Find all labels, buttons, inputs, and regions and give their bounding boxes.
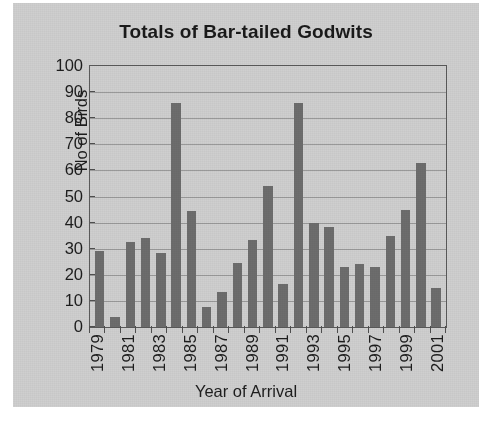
- bar-slot: [413, 66, 428, 327]
- x-axis-tick-mark: [244, 326, 245, 333]
- x-axis-tick-mark: [213, 326, 214, 333]
- x-axis-title: Year of Arrival: [13, 382, 479, 401]
- bar: [431, 288, 440, 327]
- y-axis-tick-label: 40: [65, 213, 83, 230]
- y-axis-tick-label: 100: [55, 57, 83, 74]
- bar: [263, 186, 272, 327]
- chart-card: Totals of Bar-tailed Godwits No of Birds…: [13, 3, 479, 407]
- bar-slot: [398, 66, 413, 327]
- bar-slot: [92, 66, 107, 327]
- bar-slot: [291, 66, 306, 327]
- chart-title: Totals of Bar-tailed Godwits: [13, 21, 479, 43]
- x-axis-tick-label: 1987: [213, 334, 230, 372]
- x-axis-tick-label: 1997: [367, 334, 384, 372]
- x-axis-tick-mark: [104, 326, 105, 333]
- x-axis-tick-label: 1979: [89, 334, 106, 372]
- bar: [248, 240, 257, 327]
- y-axis-tick-label: 90: [65, 83, 83, 100]
- x-axis-tick-mark: [259, 326, 260, 333]
- x-axis-tick-mark: [399, 326, 400, 333]
- bar-slot: [245, 66, 260, 327]
- x-axis-tick-label: 1995: [336, 334, 353, 372]
- x-axis-tick-label: 2001: [429, 334, 446, 372]
- bar: [217, 292, 226, 327]
- bar: [401, 210, 410, 327]
- y-axis-tick-label: 0: [74, 318, 83, 335]
- x-axis-tick-mark: [120, 326, 121, 333]
- bar-slot: [138, 66, 153, 327]
- y-axis-tick-label: 60: [65, 161, 83, 178]
- y-axis-tick-label: 10: [65, 292, 83, 309]
- x-axis-tick-label: 1981: [120, 334, 137, 372]
- x-axis-tick-mark: [337, 326, 338, 333]
- x-axis-tick-mark: [89, 326, 90, 333]
- bar-slot: [306, 66, 321, 327]
- y-axis-tick-label: 30: [65, 239, 83, 256]
- x-axis-tick-mark: [228, 326, 229, 333]
- x-axis-tick-mark: [275, 326, 276, 333]
- bar-slot: [367, 66, 382, 327]
- bar-slot: [184, 66, 199, 327]
- x-axis-tick-mark: [182, 326, 183, 333]
- bar: [156, 253, 165, 327]
- y-axis-tick-labels: 0102030405060708090100: [39, 65, 83, 326]
- x-axis-tick-mark: [414, 326, 415, 333]
- bar-slot: [214, 66, 229, 327]
- x-axis-tick-mark: [151, 326, 152, 333]
- x-axis-tick-label: 1989: [244, 334, 261, 372]
- bar-slot: [383, 66, 398, 327]
- bar: [233, 263, 242, 327]
- bar-slot: [337, 66, 352, 327]
- x-axis-tick-mark: [321, 326, 322, 333]
- y-axis-tick-label: 50: [65, 187, 83, 204]
- bar-series: [90, 66, 446, 327]
- bar: [95, 251, 104, 327]
- bar: [340, 267, 349, 327]
- x-axis-tick-mark: [430, 326, 431, 333]
- bar: [309, 223, 318, 327]
- chart-figure: Totals of Bar-tailed Godwits No of Birds…: [0, 0, 493, 433]
- bar-slot: [230, 66, 245, 327]
- bar: [187, 211, 196, 327]
- bar-slot: [276, 66, 291, 327]
- bar: [141, 238, 150, 327]
- bar-slot: [168, 66, 183, 327]
- bar: [324, 227, 333, 327]
- x-axis-tick-mark: [352, 326, 353, 333]
- x-axis-tick-mark: [197, 326, 198, 333]
- bar: [294, 103, 303, 327]
- bar: [355, 264, 364, 327]
- bar-slot: [352, 66, 367, 327]
- x-axis-tick-mark: [306, 326, 307, 333]
- bar-slot: [123, 66, 138, 327]
- bar: [278, 284, 287, 327]
- bar: [386, 236, 395, 327]
- bar-slot: [260, 66, 275, 327]
- bar: [126, 242, 135, 327]
- x-axis-tick-mark: [290, 326, 291, 333]
- bar: [171, 103, 180, 327]
- x-axis-tick-marks: [89, 326, 445, 333]
- x-axis-tick-mark: [135, 326, 136, 333]
- bar-slot: [429, 66, 444, 327]
- x-axis-tick-label: 1983: [151, 334, 168, 372]
- bar: [416, 163, 425, 327]
- x-axis-tick-label: 1999: [398, 334, 415, 372]
- x-axis-tick-mark: [383, 326, 384, 333]
- plot-area: [89, 65, 447, 328]
- y-axis-tick-label: 70: [65, 135, 83, 152]
- x-axis-tick-mark: [368, 326, 369, 333]
- x-axis-tick-labels: 1979198119831985198719891991199319951997…: [89, 334, 445, 386]
- x-axis-tick-label: 1993: [305, 334, 322, 372]
- bar-slot: [107, 66, 122, 327]
- x-axis-tick-mark: [445, 326, 446, 333]
- bar: [202, 307, 211, 327]
- y-axis-tick-label: 80: [65, 109, 83, 126]
- y-axis-tick-label: 20: [65, 266, 83, 283]
- bar-slot: [153, 66, 168, 327]
- bar: [370, 267, 379, 327]
- bar-slot: [321, 66, 336, 327]
- bar-slot: [199, 66, 214, 327]
- x-axis-tick-label: 1991: [274, 334, 291, 372]
- x-axis-tick-label: 1985: [182, 334, 199, 372]
